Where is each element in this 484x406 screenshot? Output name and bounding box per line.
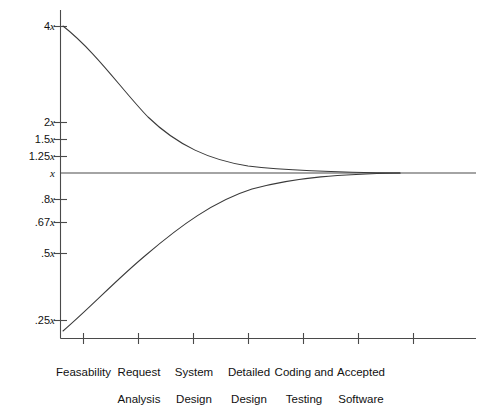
y-axis-label-0.5x: .5x — [41, 248, 55, 259]
y-label-value-1_25: 1.25 — [29, 150, 50, 162]
x-axis-label-accepted-software: Accepted Software — [313, 352, 409, 406]
y-axis-label-0.25x: .25x — [35, 315, 55, 326]
y-label-value-0_25: .25 — [35, 314, 50, 326]
y-label-symbol-1_5: x — [50, 133, 55, 145]
y-axis-label-1.5x: 1.5x — [35, 134, 55, 145]
y-axis-label-4x: 4x — [44, 21, 55, 32]
y-label-symbol-4: x — [50, 20, 55, 32]
y-axis-label-x: x — [50, 168, 55, 179]
y-label-symbol-1: x — [50, 167, 55, 179]
upper-bound-curve — [63, 26, 400, 173]
y-label-symbol-1_25: x — [50, 150, 55, 162]
y-axis-label-1.25x: 1.25x — [29, 151, 55, 162]
x-label-accepted-line1: Accepted — [337, 366, 385, 378]
y-label-value-0_5: .5 — [41, 247, 50, 259]
y-label-value-1_5: 1.5 — [35, 133, 50, 145]
lower-bound-curve — [63, 173, 400, 331]
y-label-symbol-0_25: x — [50, 314, 55, 326]
y-label-symbol-0_5: x — [50, 247, 55, 259]
y-axis-label-0.8x: .8x — [41, 194, 55, 205]
y-label-symbol-2: x — [50, 116, 55, 128]
y-label-value-0_67: .67 — [35, 216, 50, 228]
y-label-value-0_8: .8 — [41, 193, 50, 205]
y-axis-label-0.67x: .67x — [35, 217, 55, 228]
y-label-symbol-0_67: x — [50, 216, 55, 228]
y-label-symbol-0_8: x — [50, 193, 55, 205]
x-label-accepted-line2: Software — [338, 393, 383, 405]
y-axis-label-2x: 2x — [44, 117, 55, 128]
